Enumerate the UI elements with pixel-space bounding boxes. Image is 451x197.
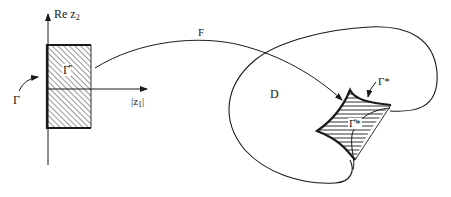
- domain-d-boundary: [229, 27, 437, 183]
- horizontal-axis-label-suffix: |: [142, 95, 144, 107]
- mapping-f-arrow: [95, 40, 342, 100]
- vertical-axis-label-text: Re z: [54, 7, 76, 21]
- domain-d-label: D: [270, 88, 279, 100]
- diagram-canvas: [0, 0, 451, 197]
- region-gamma-hat: [47, 45, 91, 128]
- gamma-pointer-arrow: [19, 77, 38, 91]
- vertical-axis-label-sub: 2: [76, 13, 80, 22]
- gamma-star-pointer-arrow: [368, 82, 376, 97]
- mapping-f-label: F: [198, 27, 204, 38]
- boundary-gamma-star-label: Γ*: [378, 76, 390, 87]
- horizontal-axis-label: |z1|: [131, 96, 144, 109]
- vertical-axis-label: Re z2: [54, 8, 80, 22]
- region-gamma-hat-label: Γ̂: [62, 64, 71, 76]
- boundary-gamma-label: Γ: [13, 94, 20, 106]
- region-gamma-hat-star-label: Γ̂*: [348, 118, 362, 129]
